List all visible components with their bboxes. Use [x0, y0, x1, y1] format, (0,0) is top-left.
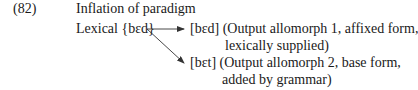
arrow-to-output-2: [147, 29, 184, 63]
output-1-line-1: [bɛd] (Output allomorph 1, affixed form,: [190, 21, 418, 37]
output-2-line-1: [bɛt] (Output allomorph 2, base form,: [190, 55, 401, 71]
output-1-line-2: lexically supplied): [225, 38, 329, 54]
output-2-line-2: added by grammar): [222, 72, 332, 88]
